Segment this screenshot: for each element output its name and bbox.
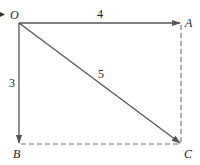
length-label-ob: 3 — [9, 76, 15, 90]
point-label-b: B — [13, 147, 21, 161]
vector-diagram: O A B C 4 3 5 — [0, 0, 200, 165]
point-label-a: A — [184, 16, 193, 30]
length-label-oc: 5 — [98, 67, 104, 81]
vector-o-c — [19, 23, 180, 143]
point-label-o: O — [10, 8, 19, 22]
point-label-c: C — [184, 147, 193, 161]
edge-arrow-fragment-icon — [0, 12, 5, 17]
length-label-oa: 4 — [97, 7, 103, 21]
